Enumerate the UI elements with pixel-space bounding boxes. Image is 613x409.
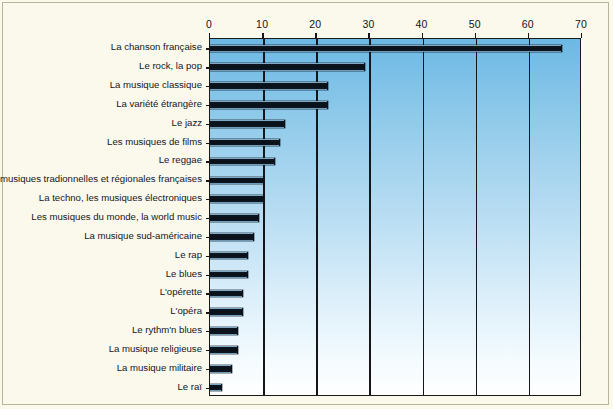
category-label: Les musiques de films: [107, 137, 202, 147]
bar: [210, 139, 280, 147]
bar: [210, 63, 365, 71]
y-tick-mark: [206, 48, 210, 49]
y-tick-mark: [206, 293, 210, 294]
category-label: L'opérette: [160, 288, 202, 298]
y-tick-mark: [206, 331, 210, 332]
x-tick-label: 10: [256, 18, 268, 30]
y-tick-mark: [206, 237, 210, 238]
y-tick-mark: [206, 124, 210, 125]
category-label: La musique sud-américaine: [84, 231, 202, 241]
y-tick-mark: [206, 161, 210, 162]
bar: [210, 82, 328, 90]
bar: [210, 195, 264, 203]
bar: [210, 327, 238, 335]
plot-area: [209, 38, 581, 396]
x-tick-mark: [581, 33, 582, 38]
gridline: [476, 39, 477, 395]
bar: [210, 346, 238, 354]
category-label: Le rythm'n blues: [132, 325, 202, 335]
category-label: La chanson française: [111, 43, 202, 53]
bar: [210, 101, 328, 109]
bar: [210, 177, 264, 185]
category-label: Les musiques du monde, la world music: [31, 212, 202, 222]
gridline: [369, 39, 370, 395]
y-tick-mark: [206, 369, 210, 370]
y-tick-mark: [206, 275, 210, 276]
bar: [210, 271, 248, 279]
x-tick-label: 70: [575, 18, 587, 30]
bar: [210, 158, 275, 166]
gridline: [423, 39, 424, 395]
y-tick-mark: [206, 388, 210, 389]
category-label: La variété étrangère: [116, 99, 202, 109]
bar-chart: 010203040506070 La chanson françaiseLe r…: [0, 0, 613, 409]
bar: [210, 233, 254, 241]
x-tick-label: 60: [522, 18, 534, 30]
x-tick-label: 50: [469, 18, 481, 30]
category-label: La techno, les musiques électroniques: [39, 193, 202, 203]
category-label: Le raï: [177, 382, 202, 392]
y-tick-mark: [206, 143, 210, 144]
category-label: Les musiques tradionnelles et régionales…: [0, 175, 202, 185]
gridline: [529, 39, 530, 395]
category-label: Le rap: [175, 250, 202, 260]
y-tick-mark: [206, 86, 210, 87]
category-label: Le reggae: [159, 156, 202, 166]
category-label: La musique religieuse: [109, 344, 202, 354]
bar: [210, 252, 248, 260]
y-tick-mark: [206, 312, 210, 313]
y-tick-mark: [206, 218, 210, 219]
category-label: La musique militaire: [117, 363, 202, 373]
x-tick-label: 30: [362, 18, 374, 30]
category-label: L'opéra: [170, 306, 202, 316]
y-tick-mark: [206, 180, 210, 181]
category-label: La musique classique: [110, 80, 202, 90]
y-tick-mark: [206, 199, 210, 200]
bar: [210, 384, 222, 392]
category-label: Le rock, la pop: [139, 61, 202, 71]
category-label: Le jazz: [172, 118, 202, 128]
y-tick-mark: [206, 256, 210, 257]
bar: [210, 290, 243, 298]
x-tick-label: 20: [309, 18, 321, 30]
bar: [210, 365, 232, 373]
bar: [210, 45, 562, 53]
gridline: [316, 39, 317, 395]
x-tick-label: 40: [416, 18, 428, 30]
bar: [210, 120, 285, 128]
y-tick-mark: [206, 350, 210, 351]
bar: [210, 214, 259, 222]
bar: [210, 308, 243, 316]
y-tick-mark: [206, 67, 210, 68]
y-tick-mark: [206, 105, 210, 106]
gridline: [263, 39, 264, 395]
category-label: Le blues: [166, 269, 202, 279]
x-tick-label: 0: [206, 18, 212, 30]
category-label-column: La chanson françaiseLe rock, la popLa mu…: [0, 38, 206, 396]
